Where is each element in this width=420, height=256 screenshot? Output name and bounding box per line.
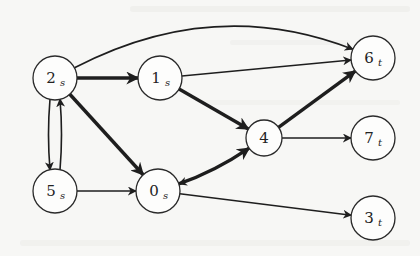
edge-2s-to-5s xyxy=(49,99,51,170)
node-0s: 0s xyxy=(136,169,180,213)
node-subscript: s xyxy=(165,77,170,88)
node-subscript: s xyxy=(60,190,65,201)
node-5s: 5s xyxy=(33,169,77,213)
node-7t: 7t xyxy=(351,116,395,160)
node-label: 4 xyxy=(259,129,269,147)
background-texture xyxy=(20,6,410,246)
node-label: 7 xyxy=(364,129,374,147)
node-subscript: s xyxy=(163,190,168,201)
node-subscript: s xyxy=(60,77,65,88)
node-3t: 3t xyxy=(351,196,395,240)
node-label: 3 xyxy=(364,209,374,227)
node-label: 0 xyxy=(149,182,159,200)
edges-layer xyxy=(49,26,356,215)
edge-4-to-6t xyxy=(279,71,356,127)
edge-2s-to-6t xyxy=(75,26,353,68)
edge-0s-to-4 xyxy=(179,148,249,184)
node-label: 5 xyxy=(46,182,56,200)
node-2s: 2s xyxy=(33,56,77,100)
node-4: 4 xyxy=(246,120,282,156)
node-label: 1 xyxy=(151,69,161,87)
node-1s: 1s xyxy=(138,56,182,100)
node-label: 6 xyxy=(364,49,374,67)
graph-diagram: 2s1s6t47t5s0s3t xyxy=(0,0,420,256)
edge-1s-to-6t xyxy=(182,60,351,76)
edge-5s-to-2s xyxy=(60,99,62,170)
edge-0s-to-3t xyxy=(180,194,351,216)
edge-2s-to-0s xyxy=(70,94,143,174)
edge-1s-to-4 xyxy=(179,89,248,129)
node-6t: 6t xyxy=(351,36,395,80)
node-label: 2 xyxy=(46,69,56,87)
